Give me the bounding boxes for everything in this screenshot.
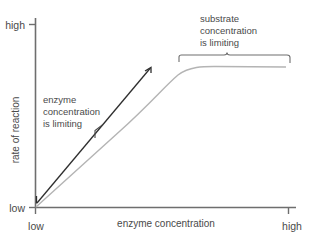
x-axis-title: enzyme concentration [117, 218, 215, 229]
x-axis-low-label: low [28, 220, 44, 232]
substrate-limiting-annotation: substrate concentration is limiting [179, 13, 290, 63]
linear-reference-line [37, 69, 150, 204]
substrate-annotation-line2: concentration [200, 25, 257, 36]
enzyme-kinetics-chart: high low low high rate of reaction enzym… [0, 0, 312, 240]
substrate-annotation-bracket [179, 53, 290, 64]
enzyme-limiting-annotation: enzyme concentration is limiting [43, 94, 103, 138]
enzyme-annotation-line1: enzyme [43, 94, 76, 105]
y-axis-low-label: low [9, 202, 25, 214]
substrate-annotation-line1: substrate [200, 13, 239, 24]
rate-of-reaction-curve [36, 66, 286, 207]
chart-container: high low low high rate of reaction enzym… [0, 0, 312, 240]
y-axis-high-label: high [5, 19, 25, 31]
enzyme-annotation-line3: is limiting [43, 118, 82, 129]
series-group [36, 66, 286, 207]
x-axis-high-label: high [282, 220, 302, 232]
y-axis-title: rate of reaction [10, 97, 21, 164]
enzyme-annotation-line2: concentration [43, 106, 100, 117]
substrate-annotation-line3: is limiting [200, 37, 239, 48]
